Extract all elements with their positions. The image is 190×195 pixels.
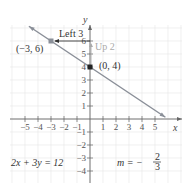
svg-text:5: 5 xyxy=(153,122,158,132)
svg-text:−4: −4 xyxy=(76,166,86,176)
svg-text:−2: −2 xyxy=(76,140,86,150)
slope-denominator: 3 xyxy=(155,161,160,172)
up-2-label: Up 2 xyxy=(95,41,115,52)
point-a-label: (−3, 6) xyxy=(16,43,43,55)
slope-label: m = − 2 3 xyxy=(117,151,161,172)
svg-text:−3: −3 xyxy=(46,122,56,132)
svg-text:−5: −5 xyxy=(20,122,30,132)
left-3-label: Left 3 xyxy=(59,28,83,39)
svg-text:4: 4 xyxy=(140,122,145,132)
svg-text:−3: −3 xyxy=(76,153,86,163)
graph: −5−4−3−2−112345−4−3−2−1123456 x y (−3, 6… xyxy=(0,0,190,195)
svg-text:5: 5 xyxy=(82,49,87,59)
point-b-label: (0, 4) xyxy=(99,60,121,72)
svg-text:3: 3 xyxy=(127,122,132,132)
svg-text:2: 2 xyxy=(82,88,87,98)
svg-text:−2: −2 xyxy=(59,122,69,132)
equation-label: 2x + 3y = 12 xyxy=(11,157,63,168)
slope-arrows xyxy=(54,39,93,64)
svg-text:1: 1 xyxy=(82,101,87,111)
svg-text:−4: −4 xyxy=(33,122,43,132)
svg-text:1: 1 xyxy=(101,122,106,132)
x-axis-label: x xyxy=(172,122,178,133)
svg-text:2: 2 xyxy=(114,122,119,132)
svg-text:3: 3 xyxy=(82,75,87,85)
y-axis-label: y xyxy=(82,14,88,25)
slope-prefix: m = − xyxy=(117,157,143,168)
svg-text:−1: −1 xyxy=(76,127,86,137)
